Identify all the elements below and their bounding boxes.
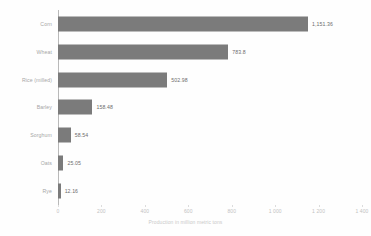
bar-value-label: 58.54: [75, 132, 88, 138]
x-axis-tick-label: 1 000: [269, 208, 282, 214]
bar-oats[interactable]: [58, 156, 63, 171]
bar-rice-milled[interactable]: [58, 72, 167, 87]
y-axis-tick-0: Corn: [0, 10, 52, 38]
x-axis-tick: [362, 205, 363, 207]
bar-chart: Corn Wheat Rice (milled) Barley Sorghum …: [0, 0, 371, 236]
category-label: Sorghum: [30, 132, 52, 138]
bar-row: 12.16: [58, 177, 362, 205]
category-label: Barley: [37, 104, 52, 110]
bar-value-label: 783.8: [232, 49, 245, 55]
x-axis-tick-label: 800: [227, 208, 236, 214]
category-label: Oats: [41, 160, 52, 166]
bar-sorghum[interactable]: [58, 128, 71, 143]
category-label: Rye: [42, 188, 52, 194]
category-label: Rice (milled): [22, 77, 52, 83]
x-axis-tick: [188, 205, 189, 207]
x-axis-tick-label: 1 400: [355, 208, 368, 214]
bar-row: 1,151.36: [58, 10, 362, 38]
y-axis-tick-5: Oats: [0, 149, 52, 177]
bar-barley[interactable]: [58, 100, 92, 115]
x-axis-tick: [275, 205, 276, 207]
x-axis-tick-label: 600: [184, 208, 193, 214]
bar-row: 58.54: [58, 121, 362, 149]
y-axis-tick-2: Rice (milled): [0, 66, 52, 94]
bar-value-label: 502.98: [171, 77, 187, 83]
y-axis-tick-1: Wheat: [0, 38, 52, 66]
bar-row: 158.48: [58, 94, 362, 122]
x-axis-tick-label: 200: [97, 208, 106, 214]
x-axis-tick: [319, 205, 320, 207]
plot-area: 1,151.36 783.8 502.98 158.48 58.54 25.05…: [58, 10, 362, 205]
bar-corn[interactable]: [58, 16, 308, 31]
category-label: Wheat: [37, 49, 53, 55]
bar-row: 25.05: [58, 149, 362, 177]
x-axis-tick-label: 400: [141, 208, 150, 214]
x-axis: 02004006008001 0001 2001 400: [58, 205, 362, 219]
x-axis-tick-label: 1 200: [312, 208, 325, 214]
y-axis-tick-4: Sorghum: [0, 121, 52, 149]
bar-row: 502.98: [58, 66, 362, 94]
x-axis-tick: [58, 205, 59, 207]
x-axis-tick-label: 0: [57, 208, 60, 214]
x-axis-tick: [101, 205, 102, 207]
bar-value-label: 12.16: [65, 188, 78, 194]
category-label: Corn: [40, 21, 52, 27]
x-axis-tick: [145, 205, 146, 207]
bar-value-label: 158.48: [96, 104, 112, 110]
bar-value-label: 25.05: [67, 160, 80, 166]
x-axis-title: Production in million metric tons: [0, 219, 371, 225]
y-axis-tick-6: Rye: [0, 177, 52, 205]
bar-row: 783.8: [58, 38, 362, 66]
y-axis-tick-3: Barley: [0, 94, 52, 122]
x-axis-tick: [232, 205, 233, 207]
bar-rye[interactable]: [58, 184, 61, 199]
bar-value-label: 1,151.36: [312, 21, 333, 27]
bar-wheat[interactable]: [58, 44, 228, 59]
